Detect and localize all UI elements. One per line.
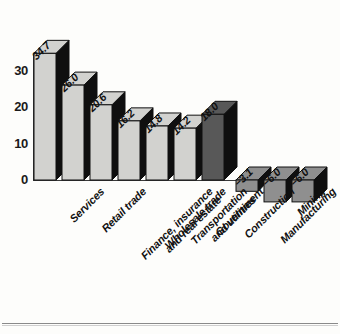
bar-3d-faces bbox=[0, 0, 340, 334]
bar-value-label-3: 20.6 bbox=[86, 91, 109, 114]
plot-area: 30 20 10 0 34.726.020.616.214.814.218.0−… bbox=[0, 0, 340, 334]
bar-front-face bbox=[62, 85, 84, 180]
bar-6[interactable] bbox=[0, 0, 340, 334]
bar-7[interactable] bbox=[0, 0, 340, 334]
category-label-2: Retail trade bbox=[100, 186, 149, 235]
bar-side-face bbox=[196, 115, 209, 180]
x-axis-zero-line bbox=[33, 180, 323, 181]
bar-3d-faces bbox=[0, 0, 340, 334]
bar-value-label-2: 26.0 bbox=[58, 71, 81, 94]
ytick-label-10: 10 bbox=[2, 136, 28, 151]
bar-3d-faces bbox=[0, 0, 340, 334]
bar-front-face bbox=[90, 105, 112, 180]
bar-9[interactable] bbox=[0, 0, 340, 334]
bar-value-label-9: −6.0 bbox=[260, 166, 283, 189]
bar-value-label-6: 14.2 bbox=[170, 114, 193, 137]
ytick-label-20: 20 bbox=[2, 99, 28, 114]
bar-3d-faces bbox=[0, 0, 340, 334]
bar-8[interactable] bbox=[0, 0, 340, 334]
bar-4[interactable] bbox=[0, 0, 340, 334]
bar-3d-faces bbox=[0, 0, 340, 334]
bar-3d-faces bbox=[0, 0, 340, 334]
footer-rule bbox=[2, 323, 338, 324]
ytick-label-0: 0 bbox=[2, 172, 28, 187]
bar-value-label-5: 14.8 bbox=[142, 112, 165, 135]
bar-side-face bbox=[112, 92, 125, 180]
bar-3d-faces bbox=[0, 0, 340, 334]
bar-5[interactable] bbox=[0, 0, 340, 334]
bar-value-label-4: 16.2 bbox=[114, 107, 137, 130]
bar-front-face bbox=[202, 114, 224, 180]
ytick-label-30: 30 bbox=[2, 63, 28, 78]
bar-3[interactable] bbox=[0, 0, 340, 334]
footer-rule-secondary bbox=[2, 325, 338, 326]
bar-3d-faces bbox=[0, 0, 340, 334]
bar-chart: 30 20 10 0 34.726.020.616.214.814.218.0−… bbox=[0, 0, 340, 334]
y-axis-line bbox=[33, 55, 34, 181]
bar-side-face bbox=[56, 40, 69, 180]
category-label-1: Services bbox=[68, 186, 107, 225]
bar-3d-faces bbox=[0, 0, 340, 334]
bar-3d-faces bbox=[0, 0, 340, 334]
bar-1[interactable] bbox=[0, 0, 340, 334]
bar-side-face bbox=[224, 101, 237, 180]
bar-value-label-7: 18.0 bbox=[198, 100, 221, 123]
bar-side-face bbox=[84, 72, 97, 180]
bar-front-face bbox=[34, 53, 56, 180]
bar-value-label-8: −3.1 bbox=[232, 166, 255, 189]
bar-10[interactable] bbox=[0, 0, 340, 334]
bar-value-label-10: −6.0 bbox=[288, 166, 311, 189]
bar-2[interactable] bbox=[0, 0, 340, 334]
